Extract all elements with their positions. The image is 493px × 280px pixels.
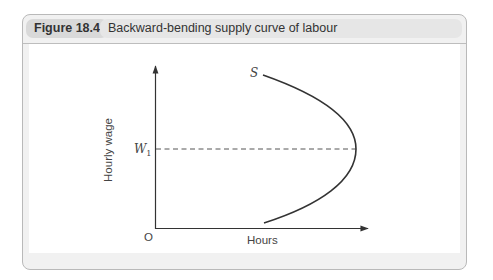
origin-label: O — [144, 231, 153, 243]
curve-label-s: S — [250, 66, 258, 80]
w1-label: W1 — [134, 142, 151, 158]
w1-label-subscript: 1 — [146, 149, 151, 158]
w1-label-main: W — [134, 142, 146, 156]
y-axis-label: Hourly wage — [102, 118, 114, 182]
x-axis-label: Hours — [247, 234, 278, 246]
